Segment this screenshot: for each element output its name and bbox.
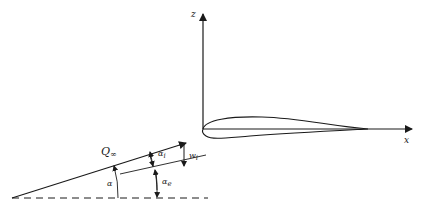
airfoil (203, 117, 368, 138)
angle-alpha-arc (114, 166, 118, 198)
angle-alpha-label: α (107, 179, 113, 188)
freestream-label: Q∞ (101, 145, 117, 159)
induced-angle-diagram: z x Q∞ wi α αi αe (0, 0, 423, 208)
z-axis-label: z (190, 9, 196, 19)
angle-alpha-e-label: αe (162, 177, 172, 188)
downwash-label: wi (189, 151, 198, 162)
x-axis-label: x (404, 135, 409, 145)
angle-alpha-i-label: αi (158, 149, 166, 160)
